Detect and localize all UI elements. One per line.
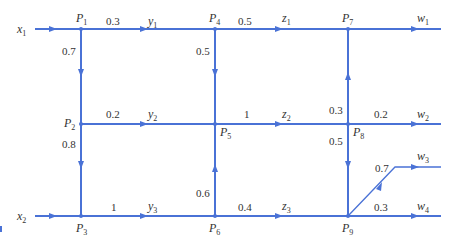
flow-label-y3: y3 xyxy=(147,199,157,215)
node-P9 xyxy=(346,214,350,218)
weight-P6-P5: 0.6 xyxy=(196,187,210,199)
weight-P9-w3: 0.7 xyxy=(375,162,389,174)
arrow-x2 xyxy=(49,213,57,219)
flow-label-y1: y1 xyxy=(147,14,157,30)
arrow-y1 xyxy=(140,26,148,32)
node-label-P1: P1 xyxy=(75,11,87,27)
node-label-P8: P8 xyxy=(352,125,364,141)
arrow-P2-P3 xyxy=(78,161,84,169)
flow-label-y2: y2 xyxy=(147,107,157,123)
weight-P8-w2: 0.2 xyxy=(374,108,388,120)
output-label-w3: w3 xyxy=(417,149,429,165)
weight-P8-P7: 0.3 xyxy=(329,104,343,116)
node-P6 xyxy=(213,214,217,218)
node-P5 xyxy=(213,122,217,126)
arrow-P8-P9 xyxy=(345,161,351,169)
flow-network-diagram: x1 x2 P1 P2 P3 P4 P5 P6 P7 P8 P9 0.3 0.7… xyxy=(0,0,456,247)
node-label-P4: P4 xyxy=(208,11,220,27)
output-label-w4: w4 xyxy=(417,199,429,215)
node-label-P2: P2 xyxy=(63,116,75,132)
arrow-P1-P2 xyxy=(78,69,84,77)
arrow-z1 xyxy=(275,26,283,32)
arrow-w2 xyxy=(411,121,419,127)
node-label-P9: P9 xyxy=(341,221,353,237)
arrow-y2 xyxy=(140,121,148,127)
weight-P9-w4: 0.3 xyxy=(374,201,388,213)
weight-P4-P7: 0.5 xyxy=(238,15,252,27)
output-label-w1: w1 xyxy=(417,11,429,27)
arrow-w4 xyxy=(411,213,419,219)
flow-label-z1: z1 xyxy=(281,11,291,27)
node-P7 xyxy=(346,27,350,31)
node-label-P5: P5 xyxy=(219,125,231,141)
weight-P4-P5: 0.5 xyxy=(196,45,210,57)
weight-P5-P8: 1 xyxy=(244,108,250,120)
node-P8 xyxy=(346,122,350,126)
arrow-w3 xyxy=(411,164,419,170)
arrow-y3 xyxy=(140,213,148,219)
arrow-P8-P7 xyxy=(345,72,351,80)
weight-P2-P5: 0.2 xyxy=(106,108,120,120)
arrow-P6-P5 xyxy=(212,164,218,172)
weight-P3-P6: 1 xyxy=(111,201,117,213)
arrowheads xyxy=(49,26,419,219)
input-label-x2: x2 xyxy=(16,209,26,225)
weight-P6-P9: 0.4 xyxy=(238,201,252,213)
arrow-w1 xyxy=(411,26,419,32)
arrow-x1 xyxy=(49,26,57,32)
node-P2 xyxy=(79,122,83,126)
input-label-x1: x1 xyxy=(16,22,26,38)
arrow-z2 xyxy=(275,121,283,127)
weight-P2-P3: 0.8 xyxy=(62,138,76,150)
weight-P1-P2: 0.7 xyxy=(62,45,76,57)
flow-label-z3: z3 xyxy=(281,199,291,215)
node-label-P3: P3 xyxy=(75,221,87,237)
edge-artifact-mark xyxy=(0,226,2,232)
node-P3 xyxy=(79,214,83,218)
flow-label-z2: z2 xyxy=(281,107,291,123)
output-label-w2: w2 xyxy=(417,107,429,123)
weight-P8-P9: 0.5 xyxy=(329,135,343,147)
arrow-P4-P5 xyxy=(212,69,218,77)
arrow-z3 xyxy=(275,213,283,219)
weight-P1-P4: 0.3 xyxy=(106,15,120,27)
node-P4 xyxy=(213,27,217,31)
node-label-P6: P6 xyxy=(208,221,220,237)
node-P1 xyxy=(79,27,83,31)
node-label-P7: P7 xyxy=(341,11,353,27)
